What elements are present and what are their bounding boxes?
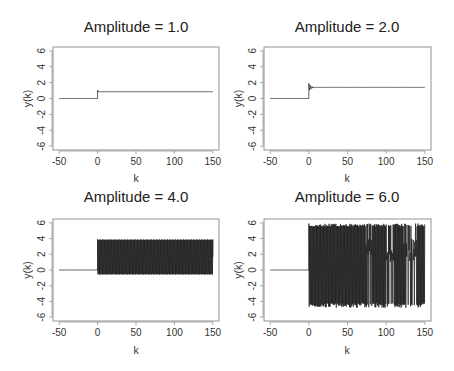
y-tick-label: 6 [36,48,47,54]
figure-2x2-step-responses: Amplitude = 1.0 k y(k) -50050100150-6-4-… [0,0,454,371]
y-tick-label: 6 [247,48,258,54]
y-tick-label: -6 [36,141,47,150]
panel-title: Amplitude = 1.0 [84,18,189,35]
x-tick-label: 150 [205,327,222,338]
y-axis-label: y(k) [21,90,33,108]
y-axis: -6-4-20246 [247,48,263,151]
y-tick-label: -4 [247,297,258,306]
x-tick-label: -50 [263,327,278,338]
x-tick-label: -50 [52,156,67,167]
x-axis: -50050100150 [263,322,434,338]
x-tick-label: -50 [52,327,67,338]
x-axis: -50050100150 [263,151,434,167]
y-tick-label: 4 [36,235,47,241]
y-tick-label: -2 [36,110,47,119]
panel-title: Amplitude = 2.0 [295,18,400,35]
panel-title: Amplitude = 6.0 [295,188,400,205]
x-tick-label: 150 [416,156,433,167]
y-tick-label: 2 [247,79,258,85]
chart-canvas: Amplitude = 1.0 k y(k) -50050100150-6-4-… [0,0,454,371]
y-tick-label: 4 [36,63,47,69]
y-tick-label: -6 [36,312,47,321]
y-tick-label: 0 [247,95,258,101]
x-axis-label: k [133,344,139,356]
y-tick-label: 2 [36,79,47,85]
y-tick-label: 4 [247,63,258,69]
x-tick-label: 0 [306,156,312,167]
response-trace [59,239,213,274]
x-tick-label: 0 [306,327,312,338]
x-tick-label: 150 [416,327,433,338]
y-tick-label: 6 [36,220,47,226]
y-axis-label: y(k) [232,261,244,279]
x-tick-label: 50 [342,156,354,167]
y-tick-label: -2 [247,110,258,119]
x-axis-label: k [133,172,139,184]
x-axis: -50050100150 [52,322,222,338]
y-tick-label: 4 [247,235,258,241]
y-tick-label: -4 [36,125,47,134]
y-tick-label: 2 [247,251,258,257]
y-axis-label: y(k) [21,261,33,279]
y-tick-label: 0 [36,95,47,101]
x-tick-label: 50 [342,327,354,338]
y-tick-label: -2 [247,281,258,290]
panel-title: Amplitude = 4.0 [84,188,189,205]
response-trace [270,224,425,308]
x-axis-label: k [344,344,350,356]
panel-amplitude-1: Amplitude = 1.0 k y(k) -50050100150-6-4-… [21,18,222,184]
x-axis-label: k [344,172,350,184]
x-tick-label: 100 [166,156,183,167]
x-tick-label: 100 [166,327,183,338]
x-tick-label: 100 [378,156,395,167]
x-tick-label: 100 [378,327,395,338]
y-tick-label: -6 [247,141,258,150]
y-axis: -6-4-20246 [247,220,263,322]
y-tick-label: -6 [247,312,258,321]
y-axis: -6-4-20246 [36,48,52,151]
y-tick-label: -4 [36,297,47,306]
x-tick-label: 0 [95,156,101,167]
y-tick-label: 0 [36,267,47,273]
y-tick-label: 0 [247,267,258,273]
response-trace [59,90,213,98]
y-tick-label: 2 [36,251,47,257]
y-axis-label: y(k) [232,90,244,108]
panel-amplitude-6: Amplitude = 6.0 k y(k) -50050100150-6-4-… [232,188,434,356]
x-axis: -50050100150 [52,151,222,167]
x-tick-label: 150 [205,156,222,167]
x-tick-label: 0 [95,327,101,338]
panel-amplitude-2: Amplitude = 2.0 k y(k) -50050100150-6-4-… [232,18,434,184]
y-tick-label: 6 [247,220,258,226]
panel-amplitude-4: Amplitude = 4.0 k y(k) -50050100150-6-4-… [21,188,222,356]
y-axis: -6-4-20246 [36,220,52,322]
y-tick-label: -4 [247,125,258,134]
x-tick-label: -50 [263,156,278,167]
response-trace [270,83,425,98]
y-tick-label: -2 [36,281,47,290]
x-tick-label: 50 [130,156,142,167]
x-tick-label: 50 [130,327,142,338]
